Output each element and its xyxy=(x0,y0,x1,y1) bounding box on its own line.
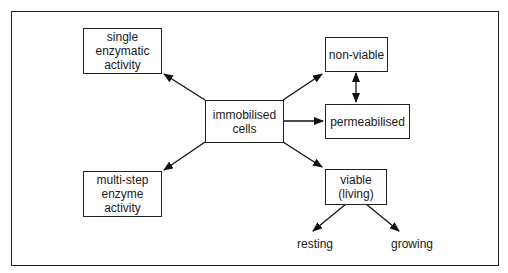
arrow-to-viable xyxy=(283,142,322,167)
arrow-to-single xyxy=(164,74,205,100)
label-growing: growing xyxy=(384,237,440,251)
node-permeabilised: permeabilised xyxy=(325,104,410,139)
node-immobilised-cells: immobilised cells xyxy=(205,100,284,143)
arrow-to-growing xyxy=(366,204,399,231)
node-viable-living: viable (living) xyxy=(325,169,387,205)
label-resting: resting xyxy=(290,237,340,251)
node-multi-step-enzyme-activity: multi-step enzyme activity xyxy=(83,171,162,217)
node-single-enzymatic-activity: single enzymatic activity xyxy=(83,28,162,74)
arrow-to-multi xyxy=(164,142,205,170)
arrow-to-resting xyxy=(313,204,346,231)
arrow-to-nonviable xyxy=(283,74,322,100)
node-non-viable: non-viable xyxy=(325,37,388,72)
